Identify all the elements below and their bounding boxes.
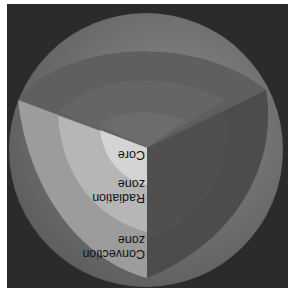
core-label: Core <box>118 148 145 162</box>
sun-cutaway-diagram: Core Radiation zone Convection zone <box>0 0 292 291</box>
radiation-zone-label-line2: zone <box>118 177 145 191</box>
convection-zone-label-line1: Convection <box>82 247 145 261</box>
radiation-zone-label-line1: Radiation <box>92 191 145 205</box>
convection-zone-label-line2: zone <box>118 233 145 247</box>
